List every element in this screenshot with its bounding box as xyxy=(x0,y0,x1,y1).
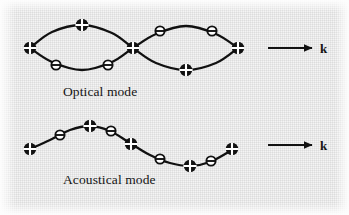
atom-marker-filled-cross xyxy=(83,119,96,132)
acoustical-mode-atom-markers xyxy=(23,119,238,172)
wavevector-label-bottom: k xyxy=(320,138,327,154)
atom-marker-open-bar xyxy=(206,156,216,165)
diagram-canvas xyxy=(0,0,349,215)
physics-diagram-figure: Optical mode Acoustical mode k k xyxy=(0,0,349,215)
optical-mode-label: Optical mode xyxy=(63,84,137,100)
wavevector-arrows xyxy=(268,48,312,145)
atom-marker-open-bar xyxy=(55,130,65,139)
acoustical-mode-panel xyxy=(23,119,238,172)
atom-marker-filled-cross xyxy=(179,63,192,76)
atom-marker-open-bar xyxy=(155,154,165,163)
atom-marker-filled-cross xyxy=(23,142,36,155)
optical-mode-atom-markers xyxy=(23,18,244,76)
wavevector-label-top: k xyxy=(320,41,327,57)
atom-marker-filled-cross xyxy=(75,18,88,31)
atom-marker-open-bar xyxy=(207,26,217,35)
atom-marker-filled-cross xyxy=(183,159,196,172)
acoustical-mode-label: Acoustical mode xyxy=(63,172,156,188)
atom-marker-open-bar xyxy=(155,26,165,35)
atom-marker-open-bar xyxy=(51,60,61,69)
optical-mode-panel xyxy=(23,18,244,76)
atom-marker-open-bar xyxy=(106,126,116,135)
atom-marker-open-bar xyxy=(103,60,113,69)
